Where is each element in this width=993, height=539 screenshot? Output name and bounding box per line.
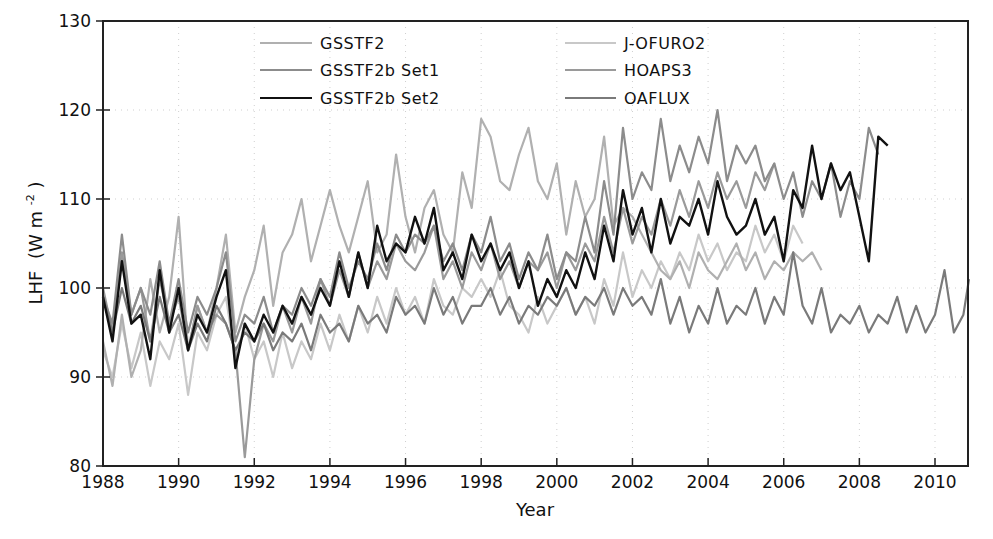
y-tick-label: 110: [59, 189, 91, 209]
x-tick-label: 2000: [535, 472, 578, 492]
legend-item-j-ofuro2: J-OFURO2: [565, 34, 706, 53]
grid-lines: [103, 21, 968, 466]
legend-item-gsstf2b-set2: GSSTF2b Set2: [260, 89, 440, 108]
legend-item-gsstf2b-set1: GSSTF2b Set1: [260, 61, 440, 80]
x-tick-label: 2002: [611, 472, 654, 492]
y-axis-title-close: ): [25, 181, 46, 188]
plot-frame: [103, 21, 968, 466]
x-tick-label: 2004: [686, 472, 729, 492]
y-tick-label: 100: [59, 278, 91, 298]
y-axis-title: LHF (W m -2 ): [17, 181, 46, 304]
legend: GSSTF2 GSSTF2b Set1 GSSTF2b Set2 J-OFURO…: [260, 34, 706, 108]
svg-text:GSSTF2: GSSTF2: [320, 34, 385, 53]
svg-text:GSSTF2b Set2: GSSTF2b Set2: [320, 89, 440, 108]
data-series: [103, 110, 969, 457]
svg-text:J-OFURO2: J-OFURO2: [623, 34, 706, 53]
y-axis-title-main: LHF: [25, 271, 46, 305]
svg-text:OAFLUX: OAFLUX: [624, 89, 690, 108]
x-tick-label: 2008: [838, 472, 881, 492]
x-axis-title: Year: [515, 499, 555, 520]
x-tick-label: 1998: [460, 472, 503, 492]
x-tick-label: 1990: [157, 472, 200, 492]
y-axis-title-sup: -2: [24, 194, 37, 205]
legend-item-hoaps3: HOAPS3: [565, 61, 692, 80]
y-tick-label: 80: [69, 456, 91, 476]
svg-text:GSSTF2b Set1: GSSTF2b Set1: [320, 61, 440, 80]
x-axis-ticks: 1988199019921994199619982000200220042006…: [81, 458, 956, 492]
y-axis-title-units: (W m: [25, 211, 46, 259]
lhf-time-series-chart: 1988199019921994199619982000200220042006…: [0, 0, 993, 539]
x-tick-label: 1992: [233, 472, 276, 492]
y-tick-label: 120: [59, 100, 91, 120]
svg-text:LHF (W m -2: LHF (W m -2 ): [17, 181, 46, 304]
legend-item-oaflux: OAFLUX: [565, 89, 690, 108]
legend-item-gsstf2: GSSTF2: [260, 34, 385, 53]
x-tick-label: 2010: [913, 472, 956, 492]
x-tick-label: 2006: [762, 472, 805, 492]
x-tick-label: 1994: [308, 472, 351, 492]
svg-text:HOAPS3: HOAPS3: [624, 61, 692, 80]
x-tick-label: 1996: [384, 472, 427, 492]
y-tick-label: 90: [69, 367, 91, 387]
y-tick-label: 130: [59, 11, 91, 31]
